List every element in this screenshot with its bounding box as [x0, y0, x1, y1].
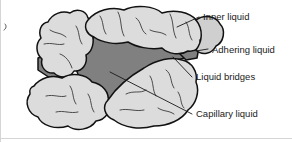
lower-left-particle: [27, 75, 109, 130]
label-inner-liquid: Inner liquid: [203, 11, 249, 22]
label-capillary-liquid: Capillary liquid: [196, 108, 258, 119]
particle-moisture-schematic: Inner liquid Adhering liquid Liquid brid…: [0, 0, 292, 142]
left-edge-mark: [4, 24, 6, 30]
label-liquid-bridges: Liquid bridges: [196, 71, 255, 82]
diagram-figure: Inner liquid Adhering liquid Liquid brid…: [0, 0, 292, 142]
label-adhering-liquid: Adhering liquid: [212, 44, 275, 55]
